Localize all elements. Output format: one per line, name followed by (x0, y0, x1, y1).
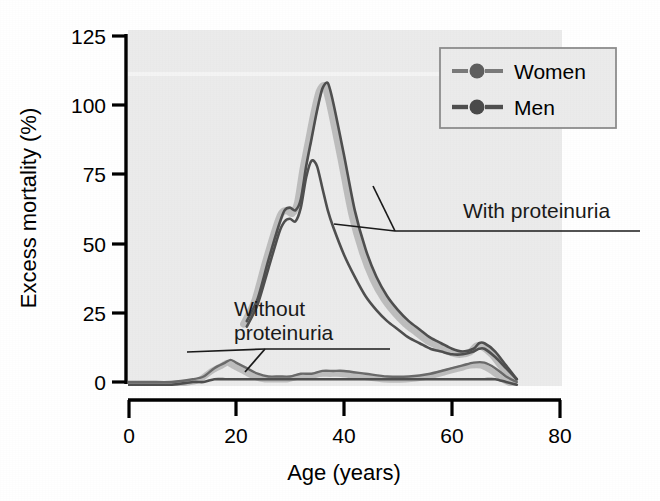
x-tick-labels: 0 20 40 60 80 (123, 424, 572, 447)
x-tick-label-0: 0 (123, 424, 135, 447)
chart-figure: 125 100 75 50 25 0 Excess mortality (%) … (0, 0, 660, 501)
annotation-without-proteinuria-line2: proteinuria (234, 321, 334, 344)
annotation-with-proteinuria-label: With proteinuria (463, 199, 610, 222)
x-tick-label-40: 40 (332, 424, 355, 447)
y-tick-label-100: 100 (71, 94, 106, 117)
y-axis (112, 34, 126, 384)
y-tick-label-75: 75 (83, 163, 106, 186)
x-tick-label-60: 60 (440, 424, 463, 447)
y-axis-title: Excess mortality (%) (16, 108, 41, 308)
legend-label-women: Women (514, 60, 586, 83)
x-tick-label-20: 20 (224, 424, 247, 447)
annotation-without-proteinuria-line1: Without (234, 297, 305, 320)
x-axis-title: Age (years) (287, 460, 401, 485)
y-tick-label-0: 0 (94, 371, 106, 394)
x-tick-label-80: 80 (548, 424, 571, 447)
y-tick-label-125: 125 (71, 25, 106, 48)
y-tick-label-50: 50 (83, 233, 106, 256)
x-axis (128, 400, 561, 418)
legend: Women Men (440, 48, 616, 128)
y-tick-labels: 125 100 75 50 25 0 (71, 25, 106, 394)
legend-label-men: Men (514, 96, 555, 119)
y-tick-label-25: 25 (83, 302, 106, 325)
